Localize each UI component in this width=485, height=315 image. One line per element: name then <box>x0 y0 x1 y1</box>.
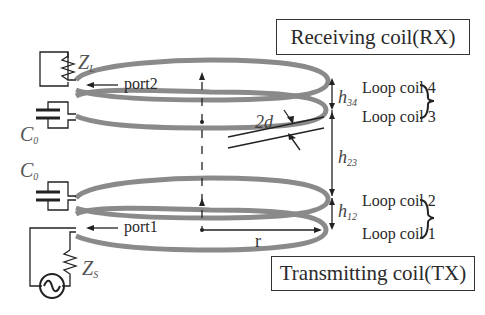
loop-coil-3-label: Loop coil 3 <box>362 109 436 125</box>
loop-coil-4-label: Loop coil 4 <box>362 80 436 96</box>
capacitor-top-label: C0 <box>20 124 38 146</box>
capacitor-bottom-label: C0 <box>20 160 38 182</box>
receiving-coil-label: Receiving coil(RX) <box>276 19 470 55</box>
h34-label: h34 <box>338 88 357 108</box>
load-impedance-label: ZL <box>78 52 95 74</box>
source-resistor-icon <box>64 250 76 280</box>
ac-source-icon <box>40 274 64 298</box>
radius-label: r <box>255 232 261 250</box>
source-impedance-label: ZS <box>82 258 98 280</box>
h12-label: h12 <box>338 202 357 222</box>
transmitting-coil-label: Transmitting coil(TX) <box>271 256 475 291</box>
port2-label: port2 <box>124 76 158 92</box>
loop-coil-2-label: Loop coil 2 <box>362 193 436 209</box>
wire-diameter-label: 2d <box>255 113 273 131</box>
port1-label: port1 <box>124 219 158 235</box>
h23-label: h23 <box>338 148 357 168</box>
loop-coil-1-label: Loop coil 1 <box>362 226 436 242</box>
